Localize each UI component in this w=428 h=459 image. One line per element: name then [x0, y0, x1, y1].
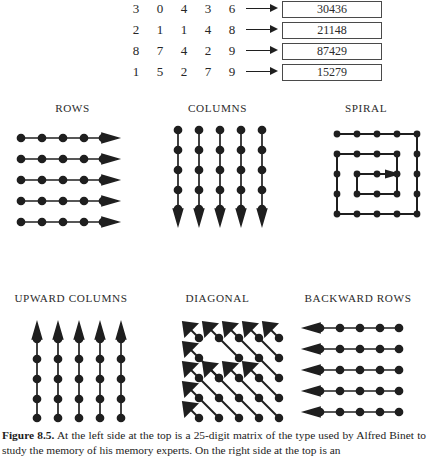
matrix-digit: 4 — [172, 2, 196, 16]
matrix-boxed-number: 21148 — [282, 22, 382, 39]
matrix-digit: 8 — [220, 23, 244, 37]
matrix-digit: 5 — [148, 65, 172, 79]
matrix-digit: 9 — [220, 44, 244, 58]
matrix-digit: 2 — [172, 65, 196, 79]
diagram-columns-down — [173, 127, 273, 231]
figure-number: Figure 8.5. — [2, 429, 54, 441]
matrix-digit: 9 — [220, 65, 244, 79]
diagram-label: BACKWARD ROWS — [288, 292, 428, 304]
matrix-boxed-number: 87429 — [282, 43, 382, 60]
matrix-digit: 7 — [148, 44, 172, 58]
matrix-digit: 8 — [124, 44, 148, 58]
arrow-right-icon — [246, 2, 280, 16]
matrix-row: 2 1 1 4 8 21148 — [124, 20, 382, 40]
arrow-right-icon — [246, 65, 280, 79]
matrix-digit: 3 — [196, 2, 220, 16]
diagram-panel-rows: ROWS — [0, 102, 145, 230]
matrix-digit: 7 — [196, 65, 220, 79]
diagram-panel-backward-rows: BACKWARD ROWS — [290, 292, 428, 424]
diagram-panel-columns: COLUMNS — [145, 102, 290, 230]
diagram-spiral-inward — [335, 132, 427, 224]
matrix-digit: 6 — [220, 2, 244, 16]
diagram-panel-upward-columns: UPWARD COLUMNS — [0, 292, 145, 424]
diagram-label: ROWS — [0, 102, 145, 114]
matrix-boxed-number: 15279 — [282, 64, 382, 81]
diagram-label: SPIRAL — [304, 102, 428, 114]
digit-matrix: 3 0 4 3 6 30436 2 1 1 4 8 21148 8 7 4 2 … — [0, 0, 428, 92]
matrix-row: 8 7 4 2 9 87429 — [124, 41, 382, 61]
diagram-diagonals-upleft — [159, 316, 283, 424]
diagram-rows-left — [302, 322, 418, 418]
matrix-digit: 2 — [124, 23, 148, 37]
arrow-right-icon — [246, 23, 280, 37]
matrix-digit: 1 — [172, 23, 196, 37]
diagram-panel-diagonal: DIAGONAL — [145, 292, 290, 424]
matrix-row: 3 0 4 3 6 30436 — [124, 0, 382, 19]
matrix-digit: 1 — [124, 65, 148, 79]
diagram-panel-spiral: SPIRAL — [290, 102, 428, 230]
diagram-label: COLUMNS — [145, 102, 290, 114]
diagram-label: UPWARD COLUMNS — [0, 292, 142, 304]
diagram-label: DIAGONAL — [145, 292, 290, 304]
matrix-row: 1 5 2 7 9 15279 — [124, 62, 382, 82]
matrix-digit: 1 — [148, 23, 172, 37]
diagram-rows-right — [18, 132, 130, 228]
matrix-digit: 2 — [196, 44, 220, 58]
matrix-digit: 0 — [148, 2, 172, 16]
diagram-columns-up — [32, 320, 132, 424]
matrix-boxed-number: 30436 — [282, 1, 382, 18]
arrow-right-icon — [246, 44, 280, 58]
matrix-digit: 4 — [172, 44, 196, 58]
figure-caption: Figure 8.5. At the left side at the top … — [2, 428, 426, 457]
matrix-digit: 4 — [196, 23, 220, 37]
matrix-digit: 3 — [124, 2, 148, 16]
figure-caption-text: At the left side at the top is a 25-digi… — [2, 429, 426, 456]
